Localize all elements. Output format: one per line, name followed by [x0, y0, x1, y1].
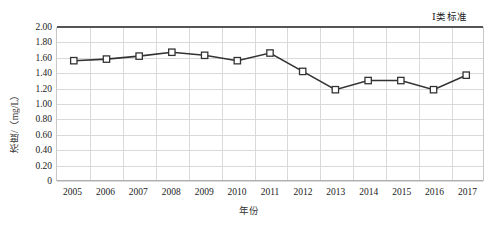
y-axis-tick-labels: 2.001.801.601.401.201.000.800.600.400.20… — [22, 20, 52, 180]
y-tick-label: 1.00 — [22, 99, 52, 109]
y-tick-label: 0.20 — [22, 161, 52, 171]
y-tick-label: 0 — [22, 176, 52, 186]
data-point-marker — [430, 87, 436, 93]
data-point-marker — [398, 77, 404, 83]
data-point-marker — [463, 72, 469, 78]
y-tick-label: 0.80 — [22, 114, 52, 124]
y-tick-label: 1.40 — [22, 68, 52, 78]
data-point-marker — [201, 52, 207, 58]
x-axis-tick-labels: 2005200620072008200920102011201220132014… — [56, 186, 484, 200]
y-tick-label: 0.40 — [22, 145, 52, 155]
y-tick-label: 1.20 — [22, 84, 52, 94]
series-line — [74, 52, 466, 89]
series-line-concentration — [57, 27, 483, 180]
y-tick-label: 0.60 — [22, 130, 52, 140]
gridline-horizontal — [57, 181, 483, 182]
data-point-marker — [332, 87, 338, 93]
data-point-marker — [103, 56, 109, 62]
data-point-marker — [71, 58, 77, 64]
data-point-marker — [169, 49, 175, 55]
data-point-marker — [267, 50, 273, 56]
x-tick-label: 2017 — [448, 186, 488, 198]
data-point-marker — [234, 58, 240, 64]
plot-area — [56, 27, 484, 181]
data-point-marker — [136, 53, 142, 59]
y-tick-label: 1.80 — [22, 37, 52, 47]
data-point-marker — [300, 68, 306, 74]
line-chart: 浓度/（mg/L） 2.001.801.601.401.201.000.800.… — [0, 0, 498, 241]
y-tick-label: 2.00 — [22, 22, 52, 32]
class-i-standard-label: Ⅰ类标准 — [432, 9, 468, 23]
x-axis-title: 年份 — [0, 203, 498, 217]
data-point-marker — [365, 77, 371, 83]
y-tick-label: 1.60 — [22, 53, 52, 63]
